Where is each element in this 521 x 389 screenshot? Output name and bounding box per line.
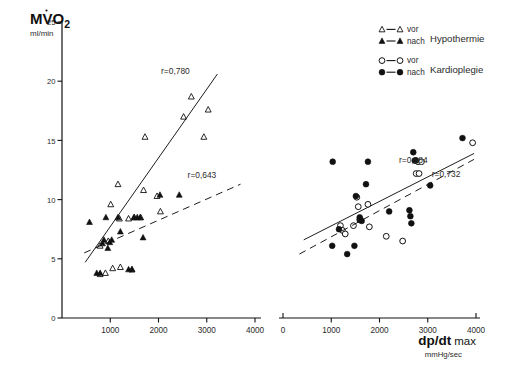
right-point bbox=[336, 226, 342, 232]
legend-entry-label: nach bbox=[407, 37, 425, 46]
scatter-figure: 05101520251000200030004000r=0,780r=0,643… bbox=[0, 0, 521, 389]
right-point bbox=[460, 135, 466, 141]
legend-group-label-kardioplegie: Kardioplegie bbox=[430, 64, 483, 75]
right-point bbox=[355, 204, 361, 210]
right-point bbox=[386, 209, 392, 215]
right-point bbox=[365, 159, 371, 165]
right-point bbox=[408, 220, 414, 226]
right-point bbox=[363, 181, 369, 187]
left-point bbox=[102, 270, 108, 276]
left-point bbox=[205, 107, 211, 113]
right-point bbox=[344, 251, 350, 257]
right-x-tick-label: 2000 bbox=[370, 326, 389, 335]
left-annotation-r: r=0,780 bbox=[161, 66, 190, 76]
left-point bbox=[101, 237, 107, 243]
left-y-tick-label: 20 bbox=[47, 77, 55, 86]
legend-marker-open-circle bbox=[379, 58, 385, 64]
left-x-tick-label: 3000 bbox=[198, 326, 217, 335]
right-point bbox=[427, 182, 433, 188]
left-point bbox=[201, 134, 207, 140]
left-point bbox=[141, 187, 147, 193]
right-point bbox=[366, 224, 372, 230]
legend-group-label-hypothermie: Hypothermie bbox=[430, 33, 484, 44]
right-annotation-r: r=0,732 bbox=[432, 169, 461, 179]
left-point bbox=[126, 215, 132, 221]
v-dot-accent-icon bbox=[45, 9, 47, 11]
right-point bbox=[416, 171, 422, 177]
right-x-tick-label: 0 bbox=[281, 326, 286, 335]
legend-entry-label: nach bbox=[407, 68, 425, 77]
left-y-tick-label: 0 bbox=[51, 314, 55, 323]
right-annotation-r: r=0,584 bbox=[399, 155, 428, 165]
right-fit-line-vor bbox=[304, 153, 474, 239]
legend-marker-filled-circle bbox=[379, 69, 385, 75]
legend-marker-filled-triangle bbox=[379, 38, 385, 44]
figure-container: 05101520251000200030004000r=0,780r=0,643… bbox=[0, 0, 521, 389]
right-point bbox=[329, 243, 335, 249]
left-x-tick-label: 2000 bbox=[149, 326, 168, 335]
right-point bbox=[352, 243, 358, 249]
right-point bbox=[359, 218, 365, 224]
legend-marker-filled-circle bbox=[397, 69, 403, 75]
left-point bbox=[188, 93, 194, 99]
legend-marker-open-triangle bbox=[397, 26, 403, 32]
right-point bbox=[383, 233, 389, 239]
legend-entry-label: vor bbox=[407, 25, 419, 34]
left-x-tick-label: 4000 bbox=[246, 326, 265, 335]
legend-marker-open-triangle bbox=[379, 26, 385, 32]
left-point bbox=[115, 181, 121, 187]
left-point bbox=[140, 234, 146, 240]
left-point bbox=[181, 114, 187, 120]
legend-entry-label: vor bbox=[407, 56, 419, 65]
right-point bbox=[353, 193, 359, 199]
left-y-tick-label: 10 bbox=[47, 196, 55, 205]
right-point bbox=[365, 201, 371, 207]
left-fit-line-vor bbox=[85, 74, 217, 262]
left-y-tick-label: 5 bbox=[51, 255, 55, 264]
legend-marker-open-circle bbox=[397, 58, 403, 64]
right-point bbox=[407, 213, 413, 219]
right-x-tick-label: 1000 bbox=[322, 326, 341, 335]
x-axis-title: dp/dtmax bbox=[418, 333, 476, 348]
right-point bbox=[330, 159, 336, 165]
y-axis-unit-label: ml/min bbox=[30, 29, 54, 38]
left-point bbox=[117, 228, 123, 234]
left-point bbox=[87, 219, 93, 225]
legend-marker-filled-triangle bbox=[397, 38, 403, 44]
left-point bbox=[176, 192, 182, 198]
left-y-tick-label: 15 bbox=[47, 137, 55, 146]
left-point bbox=[157, 208, 163, 214]
right-point bbox=[470, 140, 476, 146]
left-point bbox=[110, 265, 116, 271]
left-annotation-r: r=0,643 bbox=[188, 170, 217, 180]
left-point bbox=[108, 201, 114, 207]
right-point bbox=[400, 238, 406, 244]
left-point bbox=[142, 134, 148, 140]
right-x-tick-label: 4000 bbox=[467, 326, 486, 335]
left-point bbox=[117, 264, 123, 270]
right-point bbox=[407, 207, 413, 213]
y-axis-title: MVO2 bbox=[30, 10, 70, 30]
left-point bbox=[103, 214, 109, 220]
right-point bbox=[342, 231, 348, 237]
x-axis-unit-label: mmHg/sec bbox=[425, 350, 462, 359]
left-x-tick-label: 1000 bbox=[101, 326, 120, 335]
